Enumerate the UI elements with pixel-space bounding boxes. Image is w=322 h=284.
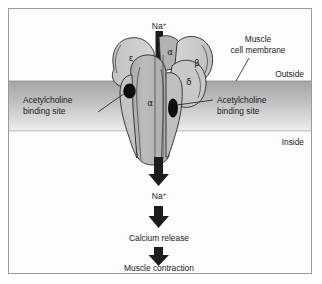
membrane-label-line1: Muscle — [245, 34, 272, 44]
receptor-diagram: Na+ Muscle cell membrane Outside Inside … — [9, 9, 311, 273]
calcium-release-label: Calcium release — [129, 233, 189, 243]
membrane-label-line2: cell membrane — [231, 45, 286, 55]
sodium-label-top: Na+ — [152, 20, 167, 31]
outside-label: Outside — [275, 69, 304, 79]
cascade-arrow-2 — [149, 206, 170, 228]
figure-root: Na+ Muscle cell membrane Outside Inside … — [0, 0, 322, 284]
svg-text:Na+: Na+ — [152, 20, 167, 31]
sodium-symbol-top: Na — [152, 21, 163, 31]
subunit-label-delta: δ — [186, 77, 191, 87]
left-binding-label-line2: binding site — [23, 106, 66, 116]
figure-frame: Na+ Muscle cell membrane Outside Inside … — [8, 8, 312, 274]
subunit-label-alpha-front: α — [147, 98, 153, 108]
subunit-label-epsilon: ε — [129, 53, 134, 63]
membrane-leader-line — [236, 58, 249, 81]
muscle-contraction-label: Muscle contraction — [124, 263, 194, 273]
sodium-label-bottom: Na+ — [152, 190, 167, 201]
right-binding-label-line2: binding site — [217, 106, 260, 116]
sodium-charge-top: + — [163, 20, 167, 27]
left-binding-site — [123, 83, 135, 98]
right-binding-label-line1: Acetylcholine — [217, 95, 267, 105]
subunit-label-alpha-top: α — [167, 47, 173, 57]
inside-label: Inside — [282, 137, 305, 147]
right-binding-site — [168, 99, 178, 118]
left-binding-label-line1: Acetylcholine — [23, 95, 73, 105]
receptor-complex — [112, 36, 212, 165]
subunit-label-beta: β — [194, 58, 200, 68]
